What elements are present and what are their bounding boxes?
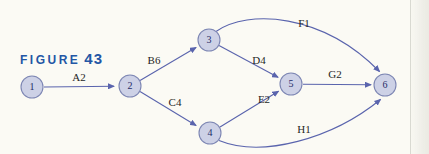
edge-label-b6: B6: [148, 54, 161, 66]
edge-d4-arrow: [219, 46, 278, 78]
figure-caption-word: FIGURE: [20, 53, 80, 67]
node-2-number: 2: [128, 80, 133, 91]
activity-network-diagram: A2 B6 C4 D4 F1 E2 H1 G2 1 2 3 4 5 6: [0, 0, 429, 154]
figure-caption: FIGURE43: [20, 50, 103, 68]
edge-label-f1: F1: [298, 17, 310, 29]
edge-label-d4: D4: [252, 54, 266, 66]
node-6-number: 6: [383, 79, 388, 90]
node-3-number: 3: [207, 34, 212, 45]
node-1-number: 1: [30, 81, 35, 92]
node-5-number: 5: [289, 78, 294, 89]
edge-g2-arrow: [303, 84, 371, 85]
edge-label-a2: A2: [72, 71, 85, 83]
page-edge-shadow: [410, 0, 429, 154]
textbook-figure-page: FIGURE43 A2 B6 C4 D4 F1 E2 H1: [0, 0, 429, 154]
edge-a2-arrow: [44, 86, 114, 87]
edge-label-c4: C4: [169, 96, 182, 108]
edge-label-g2: G2: [328, 68, 341, 80]
figure-caption-number: 43: [84, 50, 103, 67]
edge-label-h1: H1: [297, 123, 310, 135]
edge-label-e2: E2: [258, 93, 270, 105]
node-4-number: 4: [208, 127, 213, 138]
